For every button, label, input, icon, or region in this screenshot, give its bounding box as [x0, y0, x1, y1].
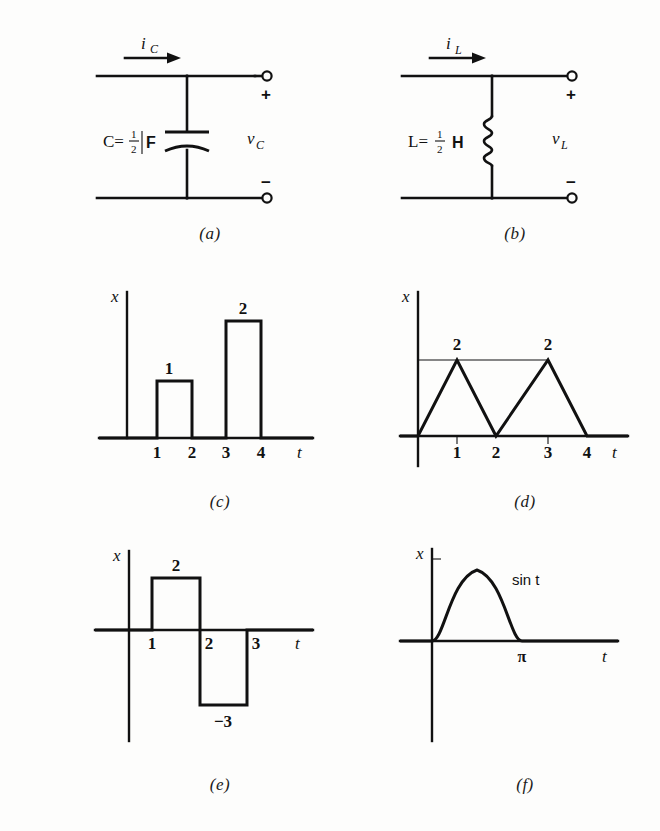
value-label-0: 1 — [165, 359, 174, 378]
component-unit: F — [146, 134, 156, 151]
x-axis-label: t — [612, 443, 618, 462]
caption-b: (b) — [400, 224, 630, 244]
x-axis-label: t — [297, 443, 303, 462]
caption-a: (a) — [95, 224, 325, 244]
y-axis-label: x — [110, 287, 119, 306]
terminal-positive — [262, 71, 271, 80]
polarity-plus: + — [566, 85, 576, 104]
polarity-minus: − — [566, 173, 576, 192]
panel-f-half-sine-plot: sin t π x t — [400, 545, 650, 760]
caption-f: (f) — [400, 775, 650, 795]
terminal-positive — [567, 71, 576, 80]
component-label: C= — [103, 132, 124, 151]
value-label-1: 2 — [239, 299, 248, 318]
value-label-0: 2 — [453, 335, 462, 354]
waveform-trace — [400, 360, 628, 436]
value-label-1: −3 — [214, 712, 232, 731]
junction-node-bottom — [185, 196, 188, 199]
value-label-0: 2 — [172, 556, 181, 575]
x-tick-pi: π — [518, 648, 527, 665]
current-label: i — [141, 34, 146, 53]
junction-node-top — [185, 74, 188, 77]
terminal-negative — [262, 193, 271, 202]
x-tick-3: 4 — [257, 443, 266, 462]
component-label: L= — [408, 132, 428, 151]
voltage-label-subscript: C — [256, 138, 265, 152]
caption-e: (e) — [95, 775, 345, 795]
current-label-subscript: C — [150, 42, 159, 56]
component-fraction-denominator: 2 — [437, 143, 443, 155]
waveform-trace — [99, 321, 313, 438]
x-tick-0: 1 — [453, 443, 462, 462]
x-tick-3: 4 — [583, 443, 592, 462]
x-tick-2: 3 — [252, 634, 261, 653]
value-label-1: 2 — [544, 335, 553, 354]
x-tick-0: 1 — [148, 634, 157, 653]
panel-a-capacitor-circuit: i C C= 1 2 F v C + − — [95, 38, 325, 223]
component-fraction-numerator: 1 — [131, 128, 137, 140]
component-fraction-numerator: 1 — [437, 128, 443, 140]
y-axis-label: x — [415, 544, 424, 563]
x-axis-label: t — [295, 634, 301, 653]
caption-d: (d) — [400, 492, 650, 512]
y-axis-label: x — [401, 287, 410, 306]
polarity-plus: + — [261, 85, 271, 104]
x-tick-2: 3 — [222, 443, 231, 462]
polarity-minus: − — [261, 173, 271, 192]
voltage-label-subscript: L — [560, 138, 568, 152]
current-label: i — [446, 34, 451, 53]
inductor-coil — [484, 116, 492, 166]
panel-e-bipolar-pulse-plot: 2 −3 1 2 3 x t — [95, 545, 345, 760]
curve-label: sin t — [512, 571, 540, 588]
x-tick-2: 3 — [544, 443, 553, 462]
component-fraction-denominator: 2 — [131, 143, 137, 155]
caption-c: (c) — [95, 492, 345, 512]
current-arrow-head — [167, 53, 181, 64]
component-unit: H — [452, 134, 464, 151]
x-tick-0: 1 — [153, 443, 162, 462]
voltage-label: v — [247, 129, 255, 148]
junction-node-bottom — [490, 196, 493, 199]
panel-d-triangular-pulse-plot: 2 2 1 2 3 4 x t — [400, 288, 650, 488]
figure-sheet: i C C= 1 2 F v C + − (a) — [0, 0, 660, 831]
panel-c-rectangular-pulse-plot: 1 2 1 2 3 4 x t — [95, 288, 345, 488]
junction-node-top — [490, 74, 493, 77]
current-label-subscript: L — [454, 43, 462, 57]
y-axis-label: x — [112, 546, 121, 565]
x-tick-1: 2 — [205, 634, 214, 653]
x-tick-1: 2 — [188, 443, 197, 462]
x-tick-1: 2 — [492, 443, 501, 462]
voltage-label: v — [552, 129, 560, 148]
current-arrow-head — [472, 53, 486, 64]
panel-b-inductor-circuit: i L L= 1 2 H v L + − — [400, 38, 630, 223]
terminal-negative — [567, 193, 576, 202]
x-axis-label: t — [602, 647, 608, 666]
